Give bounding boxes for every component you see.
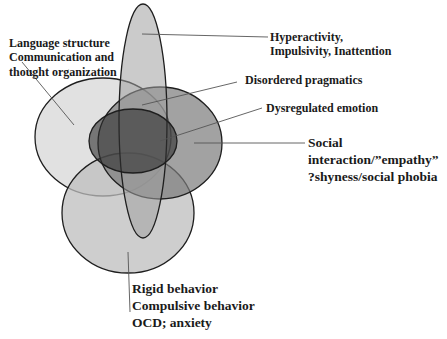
- emotion-label: Dysregulated emotion: [266, 101, 378, 115]
- venn-diagram: Language structure Communication and tho…: [0, 0, 447, 339]
- rigid-label: Rigid behavior Compulsive behavior OCD; …: [132, 281, 255, 332]
- emotion-ellipse: [89, 109, 177, 173]
- language-label: Language structure Communication and tho…: [9, 36, 117, 79]
- pragmatics-label: Disordered pragmatics: [245, 73, 362, 87]
- social-label: Social interaction/”empathy” ?shyness/so…: [308, 135, 439, 186]
- hyperactivity-label: Hyperactivity, Impulsivity, Inattention: [270, 30, 391, 59]
